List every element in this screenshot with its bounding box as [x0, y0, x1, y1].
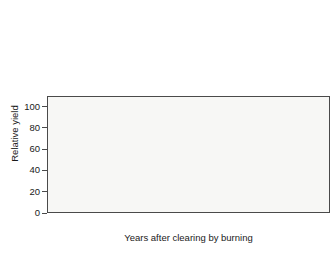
bars-container — [48, 97, 329, 212]
y-tick-label: 0 — [35, 208, 40, 218]
x-axis-tick-labels — [47, 214, 330, 228]
y-tick-label: 80 — [29, 123, 40, 133]
group-label-row — [47, 0, 333, 96]
y-tick-100: 100 — [0, 102, 47, 112]
y-tick-label: 20 — [29, 187, 40, 197]
y-axis-ticks: 020406080100 — [0, 96, 47, 213]
y-tick-label: 60 — [29, 144, 40, 154]
y-tick-20: 20 — [0, 187, 47, 197]
y-tick-mark — [42, 106, 47, 107]
y-tick-60: 60 — [0, 144, 47, 154]
y-tick-label: 40 — [29, 165, 40, 175]
x-axis-title: Years after clearing by burning — [47, 232, 330, 243]
y-axis-line — [47, 96, 48, 213]
plot-area — [47, 96, 330, 213]
y-tick-label: 100 — [24, 102, 40, 112]
y-tick-mark — [42, 191, 47, 192]
y-tick-mark — [42, 149, 47, 150]
y-tick-mark — [42, 170, 47, 171]
bar-chart-figure: 020406080100 Relative yield Years after … — [0, 0, 333, 268]
y-tick-80: 80 — [0, 123, 47, 133]
y-tick-40: 40 — [0, 165, 47, 175]
y-tick-mark — [42, 127, 47, 128]
y-tick-0: 0 — [0, 208, 47, 218]
y-axis-title: Relative yield — [9, 94, 20, 174]
